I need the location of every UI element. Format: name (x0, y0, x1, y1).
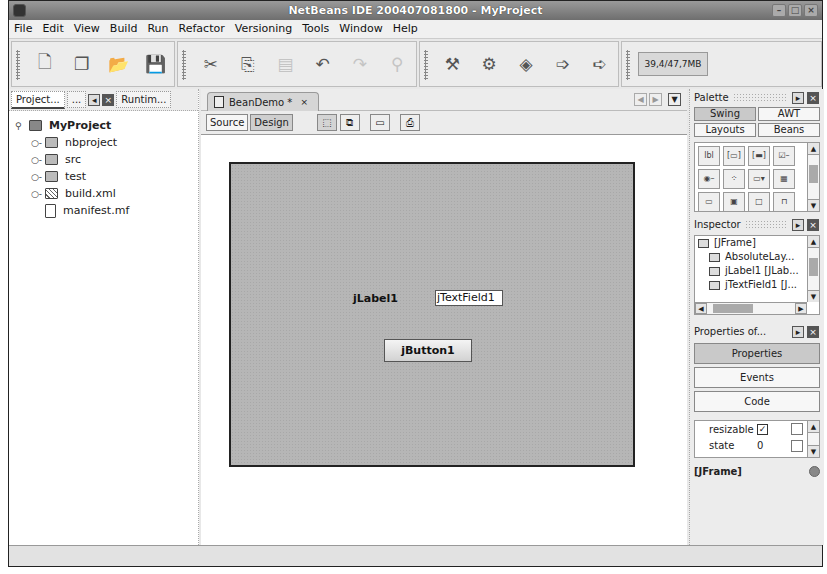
tree-node-test[interactable]: ○- test (15, 168, 198, 185)
menu-versioning[interactable]: Versioning (230, 20, 297, 38)
toggle-button-component-icon[interactable]: [▬] (748, 146, 770, 166)
expand-icon[interactable]: ○- (31, 138, 45, 148)
custom-editor-button[interactable] (791, 423, 803, 435)
help-icon[interactable] (809, 466, 820, 477)
scroll-up-icon[interactable]: ▲ (808, 421, 819, 433)
scroll-down-icon[interactable]: ▼ (808, 290, 819, 302)
text-area-component-icon[interactable]: ▣ (723, 192, 745, 212)
tree-node-manifest[interactable]: manifest.mf (15, 202, 198, 219)
menu-file[interactable]: File (9, 20, 37, 38)
scroll-right-icon[interactable]: ▶ (795, 303, 807, 314)
minimize-button[interactable]: – (772, 4, 786, 17)
menu-build[interactable]: Build (105, 20, 143, 38)
menu-help[interactable]: Help (388, 20, 423, 38)
connection-mode-icon[interactable]: ⧉ (340, 114, 360, 131)
open-project-icon[interactable]: 📂 (107, 51, 130, 77)
close-inspector-icon[interactable]: × (807, 219, 819, 231)
tab-beandemo[interactable]: BeanDemo * × (207, 92, 319, 111)
save-all-icon[interactable]: 💾 (144, 51, 167, 77)
scroll-thumb[interactable] (809, 165, 818, 183)
properties-button[interactable]: Properties (694, 343, 820, 364)
tree-node-myproject[interactable]: ⚲ MyProject (15, 117, 198, 134)
minimize-pane-icon[interactable]: ◂ (88, 94, 100, 106)
code-button[interactable]: Code (694, 391, 820, 412)
undo-icon[interactable]: ↶ (311, 51, 334, 77)
inspector-node-layout[interactable]: AbsoluteLay... (695, 250, 819, 264)
palette-scrollbar[interactable]: ▲ ▼ (807, 143, 819, 211)
inspector-node-jtextfield1[interactable]: jTextField1 [J... (695, 278, 819, 292)
run-file-icon[interactable]: ➪ (588, 51, 611, 77)
menu-edit[interactable]: Edit (37, 20, 68, 38)
scroll-down-icon[interactable]: ▼ (808, 199, 819, 211)
palette-tab-beans[interactable]: Beans (758, 123, 820, 137)
copy-icon[interactable]: ⎘ (236, 51, 259, 77)
close-pane-icon[interactable]: × (102, 94, 114, 106)
debug-icon[interactable]: ➩ (551, 51, 574, 77)
scroll-thumb[interactable] (713, 304, 753, 313)
scroll-tabs-left-icon[interactable]: ◀ (634, 93, 647, 106)
expand-icon[interactable]: ○- (31, 172, 45, 182)
inspector-node-jlabel1[interactable]: jLabel1 [JLab... (695, 264, 819, 278)
tab-runtime[interactable]: Runtim... (116, 91, 171, 108)
cut-icon[interactable]: ✂ (199, 51, 222, 77)
minimize-inspector-icon[interactable]: ▸ (792, 219, 804, 231)
memory-indicator[interactable]: 39,4/47,7MB (638, 52, 708, 76)
expand-icon[interactable]: ○- (31, 189, 45, 199)
new-file-icon[interactable]: 🗋 (33, 51, 56, 77)
drag-handle[interactable] (733, 93, 788, 102)
minimize-palette-icon[interactable]: ▸ (792, 92, 804, 104)
find-icon[interactable]: ⚲ (386, 51, 409, 77)
show-opened-documents-icon[interactable]: ▼ (668, 93, 681, 106)
menu-window[interactable]: Window (334, 20, 387, 38)
inspector-node-jframe[interactable]: [JFrame] (695, 236, 819, 250)
list-component-icon[interactable]: ▦ (773, 169, 795, 189)
checkbox-component-icon[interactable]: ☑– (773, 146, 795, 166)
combo-box-component-icon[interactable]: ▭▾ (748, 169, 770, 189)
palette-tab-layouts[interactable]: Layouts (694, 123, 756, 137)
title-bar[interactable]: NetBeans IDE 200407081800 - MyProject – … (9, 1, 822, 20)
events-button[interactable]: Events (694, 367, 820, 388)
redo-icon[interactable]: ↷ (348, 51, 371, 77)
close-tab-icon[interactable]: × (300, 97, 308, 107)
property-sheet-scrollbar[interactable]: ▲ ▼ (807, 421, 819, 457)
preview-icon[interactable]: ▭ (370, 114, 390, 131)
text-field-component-icon[interactable]: ▭ (698, 192, 720, 212)
new-project-icon[interactable]: ❐ (70, 51, 93, 77)
tree-node-build-xml[interactable]: ○- build.xml (15, 185, 198, 202)
expand-icon[interactable]: ○- (31, 155, 45, 165)
close-window-button[interactable]: × (804, 4, 818, 17)
tree-node-nbproject[interactable]: ○- nbproject (15, 134, 198, 151)
state-value[interactable]: 0 (757, 440, 763, 451)
close-palette-icon[interactable]: × (807, 92, 819, 104)
scroll-thumb[interactable] (809, 258, 818, 276)
scroll-tabs-right-icon[interactable]: ▶ (649, 93, 662, 106)
inspector-vscrollbar[interactable]: ▲ ▼ (807, 236, 819, 302)
menu-refactor[interactable]: Refactor (174, 20, 230, 38)
scroll-down-icon[interactable]: ▼ (808, 445, 819, 457)
tab-projects[interactable]: Project... (11, 91, 65, 109)
source-button[interactable]: Source (206, 114, 248, 131)
toolbar-grip[interactable] (626, 50, 630, 80)
scroll-up-icon[interactable]: ▲ (808, 236, 819, 248)
test-form-icon[interactable]: ⎙ (400, 114, 420, 131)
jtextfield1-component[interactable]: jTextField1 (435, 290, 503, 306)
radio-button-component-icon[interactable]: ◉– (698, 169, 720, 189)
minimize-properties-icon[interactable]: ▸ (792, 326, 804, 338)
paste-icon[interactable]: ▤ (274, 51, 297, 77)
inspector-hscrollbar[interactable]: ◀ ▶ (695, 302, 807, 314)
menu-run[interactable]: Run (142, 20, 173, 38)
button-group-component-icon[interactable]: ⁘ (723, 169, 745, 189)
palette-tab-swing[interactable]: Swing (694, 107, 756, 121)
menu-tools[interactable]: Tools (297, 20, 334, 38)
collapse-icon[interactable]: ⚲ (15, 121, 29, 131)
resizable-checkbox[interactable]: ✓ (757, 424, 768, 435)
panel-component-icon[interactable]: □ (748, 192, 770, 212)
jbutton1-component[interactable]: jButton1 (384, 339, 472, 362)
build-icon[interactable]: ⚒ (441, 51, 464, 77)
run-icon[interactable]: ◈ (515, 51, 538, 77)
close-properties-icon[interactable]: × (807, 326, 819, 338)
jframe-form[interactable]: jLabel1 jTextField1 jButton1 (229, 162, 635, 467)
jlabel1-component[interactable]: jLabel1 (353, 292, 398, 305)
toolbar-grip[interactable] (424, 50, 428, 80)
scroll-up-icon[interactable]: ▲ (808, 143, 819, 155)
